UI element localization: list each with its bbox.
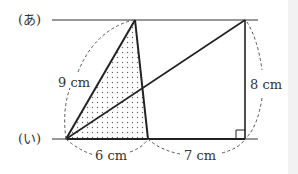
label-6cm: 6 cm [95, 149, 127, 162]
right-angle-mark [236, 130, 245, 139]
arc-6cm [66, 139, 94, 155]
arc-7cm [148, 139, 180, 154]
arc-8cm [247, 22, 262, 70]
label-8cm: 8 cm [250, 78, 282, 91]
label-7cm: 7 cm [184, 149, 216, 162]
label-line-a: (あ) [18, 13, 41, 26]
label-line-i: (い) [18, 132, 41, 145]
label-9cm: 9 cm [58, 76, 90, 89]
